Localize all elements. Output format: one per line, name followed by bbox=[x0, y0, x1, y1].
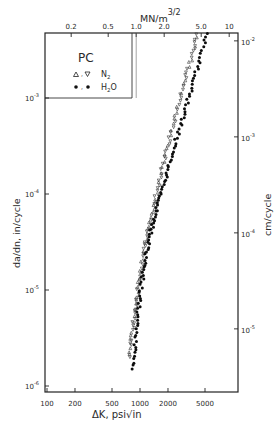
h2o-point bbox=[174, 142, 177, 145]
top-tick-label: 2.0 bbox=[159, 23, 170, 31]
h2o-point bbox=[143, 259, 146, 262]
h2o-point bbox=[170, 158, 173, 161]
h2o-point bbox=[145, 250, 148, 253]
h2o-point bbox=[180, 118, 183, 121]
h2o-point bbox=[197, 59, 200, 62]
h2o-point bbox=[135, 331, 138, 334]
h2o-point bbox=[183, 107, 186, 110]
h2o-point bbox=[204, 35, 207, 38]
h2o-point bbox=[193, 74, 196, 77]
h2o-point bbox=[134, 334, 137, 337]
h2o-point bbox=[176, 137, 179, 140]
x-tick-label: 5000 bbox=[196, 400, 214, 408]
h2o-point bbox=[190, 87, 193, 90]
h2o-point bbox=[150, 228, 153, 231]
h2o-point bbox=[133, 343, 136, 346]
h2o-point bbox=[191, 83, 194, 86]
h2o-point bbox=[136, 307, 139, 310]
h2o-point bbox=[163, 183, 166, 186]
h2o-point bbox=[136, 322, 139, 325]
h2o-point bbox=[178, 127, 181, 130]
legend-title: PC bbox=[78, 51, 94, 65]
h2o-point bbox=[166, 164, 169, 167]
h2o-point bbox=[185, 98, 188, 101]
h2o-point bbox=[193, 70, 196, 73]
h2o-point bbox=[139, 305, 142, 308]
x-tick-label: 200 bbox=[68, 400, 81, 408]
h2o-point bbox=[147, 246, 150, 249]
h2o-point bbox=[154, 216, 157, 219]
h2o-point bbox=[202, 45, 205, 48]
h2o-point bbox=[192, 77, 195, 80]
h2o-point bbox=[159, 191, 162, 194]
h2o-point bbox=[132, 362, 135, 365]
x-tick-label: 2000 bbox=[159, 400, 177, 408]
h2o-point bbox=[156, 209, 159, 212]
h2o-point bbox=[199, 52, 202, 55]
top-tick-label: 0.2 bbox=[66, 23, 77, 31]
h2o-point bbox=[147, 238, 150, 241]
h2o-point bbox=[172, 150, 175, 153]
h2o-point bbox=[144, 262, 147, 265]
h2o-point bbox=[200, 49, 203, 52]
h2o-point bbox=[145, 256, 148, 259]
h2o-point bbox=[164, 179, 167, 182]
filled-circle-marker-icon bbox=[74, 85, 78, 89]
h2o-point bbox=[131, 367, 134, 370]
h2o-point bbox=[183, 116, 186, 119]
h2o-point bbox=[184, 103, 187, 106]
h2o-point bbox=[191, 79, 194, 82]
h2o-point bbox=[140, 280, 143, 283]
h2o-point bbox=[203, 38, 206, 41]
h2o-point bbox=[134, 346, 137, 349]
h2o-point bbox=[165, 172, 168, 175]
h2o-point bbox=[141, 286, 144, 289]
h2o-point bbox=[187, 101, 190, 104]
h2o-point bbox=[206, 32, 209, 35]
svg-text:,: , bbox=[81, 70, 83, 77]
x-tick-label: 1000 bbox=[131, 400, 149, 408]
h2o-point bbox=[179, 122, 182, 125]
h2o-point bbox=[137, 302, 140, 305]
h2o-point bbox=[138, 295, 141, 298]
fatigue-crack-growth-chart: PC , N2 , H2O 100200500100020005000 0.20… bbox=[0, 0, 276, 423]
right-axis-title: cm/cycle bbox=[262, 194, 273, 236]
h2o-point bbox=[152, 226, 155, 229]
h2o-point bbox=[160, 188, 163, 191]
x-axis-title: ΔK, psi√in bbox=[92, 409, 142, 420]
h2o-point bbox=[166, 168, 169, 171]
h2o-point bbox=[191, 90, 194, 93]
h2o-point bbox=[138, 289, 141, 292]
top-tick-label: 1.0 bbox=[131, 23, 142, 31]
top-tick-label: 0.5 bbox=[103, 23, 114, 31]
h2o-point bbox=[136, 319, 139, 322]
h2o-point bbox=[142, 278, 145, 281]
h2o-point bbox=[176, 131, 179, 134]
h2o-point bbox=[188, 92, 191, 95]
filled-circle-marker-icon bbox=[86, 85, 90, 89]
h2o-point bbox=[198, 56, 201, 59]
h2o-point bbox=[135, 311, 138, 314]
top-tick-label: 10 bbox=[225, 23, 234, 31]
h2o-point bbox=[141, 271, 144, 274]
h2o-point bbox=[135, 327, 138, 330]
h2o-point bbox=[204, 41, 207, 44]
h2o-point bbox=[173, 138, 176, 141]
top-tick-label: 5.0 bbox=[196, 23, 207, 31]
h2o-point bbox=[133, 355, 136, 358]
h2o-point bbox=[196, 65, 199, 68]
h2o-point bbox=[148, 235, 151, 238]
x-tick-label: 100 bbox=[40, 400, 53, 408]
h2o-point bbox=[150, 232, 153, 235]
h2o-point bbox=[135, 340, 138, 343]
h2o-point bbox=[142, 268, 145, 271]
h2o-point bbox=[183, 110, 186, 113]
x-tick-label: 500 bbox=[105, 400, 118, 408]
h2o-point bbox=[142, 274, 145, 277]
h2o-point bbox=[155, 213, 158, 216]
y-axis-title: da/dn, in/cycle bbox=[11, 198, 22, 268]
svg-text:,: , bbox=[81, 83, 83, 90]
